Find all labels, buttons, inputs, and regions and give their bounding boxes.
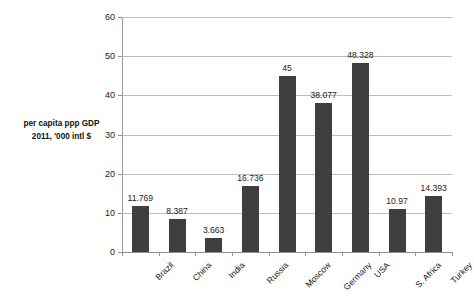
bar-value-label: 8.387 — [166, 206, 188, 216]
bar — [389, 209, 406, 252]
y-axis-tick-label: 50 — [105, 51, 115, 61]
x-axis-tick-mark — [452, 252, 453, 256]
x-axis-category-label: Moscow — [303, 260, 332, 289]
bar — [242, 186, 259, 252]
y-axis-tick-mark — [118, 56, 122, 57]
x-axis-tick-mark — [195, 252, 196, 256]
x-axis-category-label: Brazil — [154, 260, 176, 282]
bar — [169, 219, 186, 252]
x-axis-tick-mark — [342, 252, 343, 256]
y-axis-tick-mark — [118, 135, 122, 136]
bar-value-label: 3.663 — [203, 225, 225, 235]
y-axis-tick-label: 40 — [105, 90, 115, 100]
x-axis-category-label: Turkey — [448, 260, 473, 285]
y-axis-tick-mark — [118, 213, 122, 214]
y-axis-tick-mark — [118, 174, 122, 175]
y-axis-tick-label: 30 — [105, 130, 115, 140]
bar — [315, 103, 332, 252]
y-axis-tick-label: 0 — [110, 247, 115, 257]
bar — [352, 63, 369, 252]
x-axis-tick-mark — [415, 252, 416, 256]
x-axis-tick-mark — [305, 252, 306, 256]
y-axis-tick-mark — [118, 95, 122, 96]
y-axis-title-line-2: 2011, '000 intl $ — [8, 131, 115, 144]
bar-value-label: 45 — [282, 63, 292, 73]
x-axis-category-label: China — [191, 260, 214, 283]
x-axis-category-label: S. Africa — [413, 260, 443, 290]
y-axis-title: per capita ppp GDP 2011, '000 intl $ — [8, 118, 115, 143]
bar-value-label: 14.393 — [421, 183, 447, 193]
gridline — [122, 56, 452, 57]
bar-value-label: 11.769 — [128, 193, 154, 203]
x-axis-tick-mark — [122, 252, 123, 256]
y-axis-tick-mark — [118, 17, 122, 18]
x-axis-tick-mark — [269, 252, 270, 256]
gridline — [122, 17, 452, 18]
bar-value-label: 38.077 — [311, 90, 337, 100]
bar — [279, 76, 296, 252]
bar — [132, 206, 149, 252]
x-axis-category-label: USA — [373, 260, 393, 280]
bar — [205, 238, 222, 252]
x-axis-category-label: Russia — [265, 260, 291, 286]
x-axis-category-label: India — [226, 260, 246, 280]
y-axis-tick-label: 10 — [105, 208, 115, 218]
x-axis-tick-mark — [159, 252, 160, 256]
bar-value-label: 16.736 — [237, 173, 263, 183]
plot-area: 0102030405060 11.7698.3873.66316.7364538… — [122, 17, 452, 252]
bar — [425, 196, 442, 252]
x-axis-tick-mark — [379, 252, 380, 256]
bar-value-label: 48.328 — [347, 50, 373, 60]
y-axis-tick-label: 20 — [105, 169, 115, 179]
bar-value-label: 10.97 — [386, 196, 408, 206]
x-axis-tick-mark — [232, 252, 233, 256]
x-axis-line — [122, 252, 452, 253]
y-axis-tick-label: 60 — [105, 12, 115, 22]
x-axis-category-label: Germany — [341, 260, 373, 292]
y-axis-title-line-1: per capita ppp GDP — [8, 118, 115, 131]
